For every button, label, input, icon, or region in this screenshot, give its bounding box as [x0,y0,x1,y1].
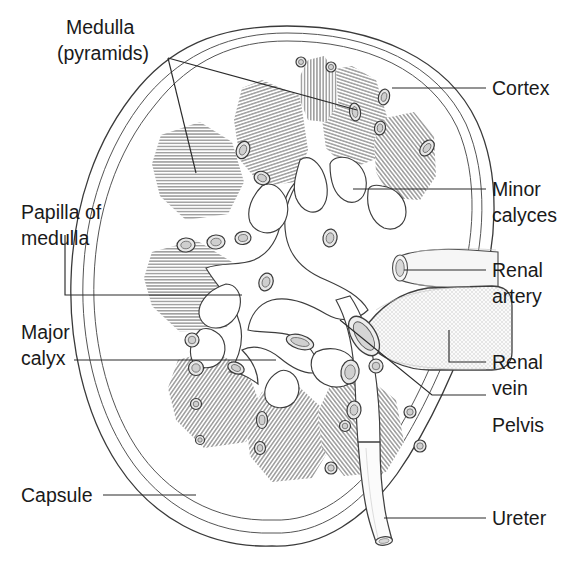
vessel-oval [191,399,202,410]
vessel-oval [414,440,426,452]
vessel-oval [185,333,199,347]
label-medulla-line1: Medulla [66,16,134,38]
vessel-oval [340,421,351,432]
vessel-oval [255,442,266,455]
label-renal-artery-line1: Renal [492,259,543,281]
vessel-oval [196,436,205,445]
label-renal-vein-line1: Renal [492,351,543,373]
label-major-calyx-line1: Major [21,321,70,343]
vessel-oval [189,361,204,376]
label-medulla-line2: (pyramids) [57,42,149,64]
renal-artery [393,249,499,288]
vessel-oval [325,462,337,474]
label-renal-vein-line2: vein [492,377,528,399]
label-cortex: Cortex [492,77,550,99]
label-ureter: Ureter [492,507,547,529]
vessel-oval [326,62,336,72]
label-major-calyx-line2: calyx [21,347,66,369]
vessel-oval [404,406,416,418]
vessel-oval [296,57,306,67]
vessel-oval [207,234,226,249]
kidney-diagram-page: Medulla (pyramids) Cortex Minor calyces … [0,0,574,564]
label-renal-artery-line2: artery [492,285,542,307]
label-papilla-line2: medulla [21,227,89,249]
label-minor-calyces-line1: Minor [492,178,541,200]
label-papilla-line1: Papilla of [21,201,102,223]
vessel-oval [177,237,196,252]
kidney-cross-section-figure: Medulla (pyramids) Cortex Minor calyces … [0,0,574,564]
label-pelvis: Pelvis [492,414,544,436]
vessel-oval [257,412,268,429]
vessel-oval [369,359,383,373]
label-capsule: Capsule [21,484,93,506]
label-minor-calyces-line2: calyces [492,204,557,226]
